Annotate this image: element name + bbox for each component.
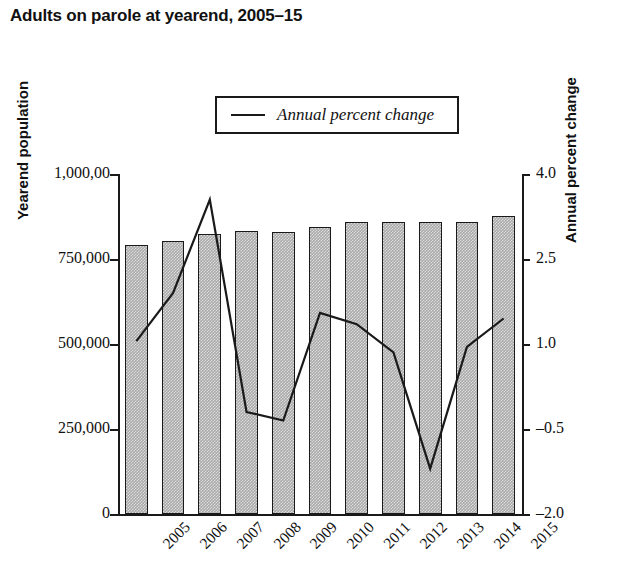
left-axis-tick-label: 1,000,00 [54,164,110,182]
chart-figure: Adults on parole at yearend, 2005–15 Ann… [0,0,632,572]
legend-line-icon [231,114,265,116]
legend-item-label: Annual percent change [277,105,434,125]
x-axis-label-2008: 2008 [270,518,305,553]
left-axis-tick-label: 500,000 [58,334,110,352]
left-axis-tick [110,514,118,516]
x-axis-label-2013: 2013 [453,518,488,553]
right-axis-tick [522,174,530,176]
right-axis-tick [522,259,530,261]
right-axis-title: Annual percent change [562,40,579,280]
page-title: Adults on parole at yearend, 2005–15 [10,6,302,26]
right-axis-tick-label: 4.0 [536,164,556,182]
right-axis-tick [522,344,530,346]
line-series [118,174,522,514]
left-axis-tick [110,344,118,346]
right-axis-tick [522,429,530,431]
left-axis-tick [110,429,118,431]
chart-legend: Annual percent change [215,96,459,134]
x-axis-label-2009: 2009 [306,518,341,553]
left-axis-tick [110,174,118,176]
annual-percent-change-line [136,200,503,469]
x-axis-labels: 2005200620072008200920102011201220132014… [118,518,528,572]
right-axis-tick-label: –0.5 [536,419,564,437]
right-axis-tick-label: 1.0 [536,334,556,352]
left-axis-tick-label: 750,000 [58,249,110,267]
left-axis-tick-label: 0 [102,504,110,522]
x-axis-label-2005: 2005 [159,518,194,553]
x-axis-label-2012: 2012 [417,518,452,553]
plot-area: 1,000,00 750,000 500,000 250,000 0 4.0 2… [118,174,522,514]
x-axis-label-2015: 2015 [527,518,562,553]
left-axis-title: Yearend population [14,41,31,261]
x-axis-label-2011: 2011 [380,518,414,552]
x-axis-label-2010: 2010 [343,518,378,553]
left-axis-tick-label: 250,000 [58,419,110,437]
right-axis-tick-label: 2.5 [536,249,556,267]
x-axis-label-2007: 2007 [233,518,268,553]
x-axis-label-2014: 2014 [490,518,525,553]
right-axis-tick [522,514,530,516]
x-axis-label-2006: 2006 [196,518,231,553]
bottom-axis-line [118,514,524,516]
left-axis-tick [110,259,118,261]
